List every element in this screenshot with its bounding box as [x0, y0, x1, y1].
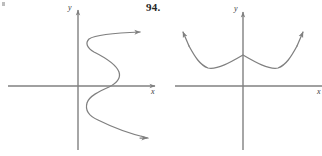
left-y-axis-label: y	[68, 4, 72, 12]
right-curve-left-arrow	[183, 32, 189, 46]
left-x-axis-label: x	[151, 88, 155, 96]
right-panel-graph	[175, 12, 322, 150]
left-panel-graph	[8, 10, 155, 150]
figure-container: 94. y x y x	[0, 0, 322, 156]
right-x-axis-label: x	[317, 88, 321, 96]
graphs-canvas	[0, 0, 322, 156]
right-curve-right-arrow	[297, 32, 303, 46]
right-y-axis-label: y	[234, 5, 238, 13]
left-curve-upper-branch	[86, 32, 148, 138]
